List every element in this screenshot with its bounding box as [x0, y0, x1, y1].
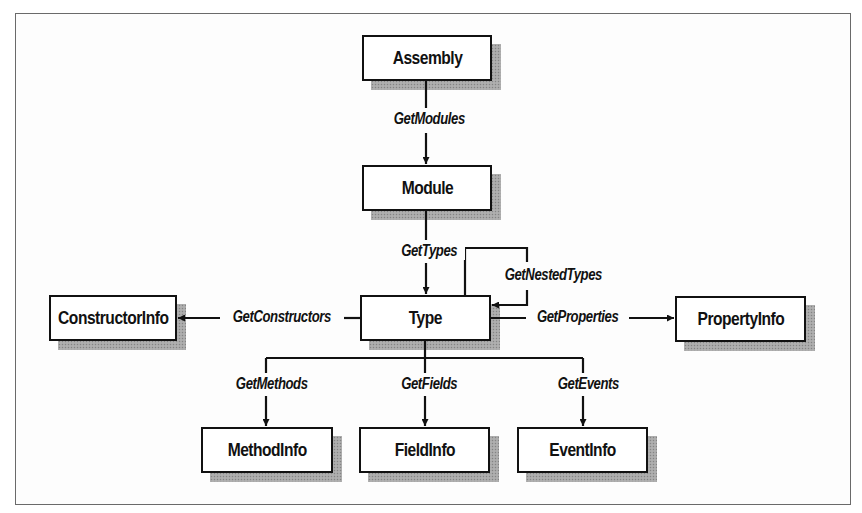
node-fieldinfo-label: FieldInfo [394, 439, 454, 461]
label-get-types-text: GetTypes [401, 242, 457, 260]
node-module: Module [362, 165, 492, 211]
node-assembly-label: Assembly [392, 47, 462, 69]
label-get-nested-types-text: GetNestedTypes [505, 266, 602, 284]
node-type-label: Type [409, 307, 442, 329]
label-get-constructors: GetConstructors [220, 308, 344, 326]
label-get-nested-types: GetNestedTypes [492, 266, 615, 284]
label-get-methods-text: GetMethods [236, 375, 308, 393]
label-get-modules: GetModules [384, 110, 475, 128]
label-get-properties: GetProperties [526, 308, 629, 326]
node-eventinfo-label: EventInfo [549, 439, 616, 461]
label-get-methods: GetMethods [226, 375, 317, 393]
node-assembly: Assembly [362, 35, 492, 81]
label-get-modules-text: GetModules [394, 110, 465, 128]
node-constructorinfo-label: ConstructorInfo [58, 307, 168, 329]
label-get-fields: GetFields [393, 375, 465, 393]
node-methodinfo-label: MethodInfo [227, 439, 306, 461]
node-constructorinfo: ConstructorInfo [49, 295, 177, 341]
label-get-properties-text: GetProperties [537, 308, 618, 326]
label-get-fields-text: GetFields [401, 375, 457, 393]
node-type: Type [360, 295, 491, 341]
label-get-types: GetTypes [393, 242, 465, 260]
node-methodinfo: MethodInfo [201, 427, 333, 473]
label-get-events-text: GetEvents [558, 375, 619, 393]
label-get-events: GetEvents [549, 375, 628, 393]
node-module-label: Module [401, 177, 453, 199]
node-fieldinfo: FieldInfo [359, 427, 490, 473]
node-propertyinfo-label: PropertyInfo [697, 308, 784, 330]
label-get-constructors-text: GetConstructors [233, 308, 331, 326]
node-propertyinfo: PropertyInfo [675, 296, 806, 342]
node-eventinfo: EventInfo [517, 427, 648, 473]
